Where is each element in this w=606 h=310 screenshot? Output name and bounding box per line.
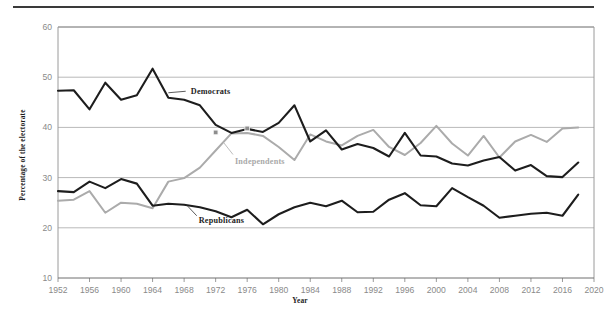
series-label-republicans: Republicans [199, 216, 244, 225]
x-tick-1976: 1976 [238, 285, 257, 295]
series-lines-group [58, 69, 578, 225]
y-tick-30: 30 [42, 173, 52, 183]
x-tick-2004: 2004 [458, 285, 477, 295]
x-tick-2008: 2008 [490, 285, 509, 295]
y-axis-title: Percentage of the electorate [18, 109, 27, 201]
crossover-marker-1972 [213, 130, 218, 135]
crossover-marker-1976 [245, 126, 250, 131]
y-tick-10: 10 [42, 273, 52, 283]
y-tick-20: 20 [42, 223, 52, 233]
x-tick-1956: 1956 [80, 285, 99, 295]
top-rule-divider [13, 6, 594, 8]
x-tick-1992: 1992 [364, 285, 383, 295]
series-label-democrats: Democrats [191, 87, 231, 96]
x-tick-1952: 1952 [48, 285, 67, 295]
x-tick-2012: 2012 [521, 285, 540, 295]
x-tick-1996: 1996 [395, 285, 414, 295]
x-tick-1980: 1980 [269, 285, 288, 295]
x-tick-labels-group: 1952195619601964196819721976198019841988… [48, 278, 603, 295]
x-axis-title: Year [292, 296, 308, 305]
x-tick-2000: 2000 [427, 285, 446, 295]
gridlines-group [58, 27, 594, 228]
x-tick-1972: 1972 [206, 285, 225, 295]
x-tick-1988: 1988 [332, 285, 351, 295]
y-tick-40: 40 [42, 122, 52, 132]
x-tick-1964: 1964 [143, 285, 162, 295]
x-tick-2020: 2020 [584, 285, 603, 295]
axes-frame [58, 27, 594, 278]
y-tick-50: 50 [42, 72, 52, 82]
leader-line-democrats [168, 91, 185, 93]
series-line-republicans [58, 179, 578, 224]
line-chart-svg: Percentage of the electorate Year 102030… [0, 0, 606, 310]
series-label-independents: Independents [235, 157, 285, 166]
series-line-independents [58, 126, 578, 213]
chart-figure: Percentage of the electorate Year 102030… [0, 0, 606, 310]
plot-frame [58, 27, 594, 278]
y-tick-labels-group: 102030405060 [42, 22, 52, 283]
leader-line-independents [224, 142, 233, 154]
series-line-democrats [58, 69, 578, 177]
x-tick-1984: 1984 [301, 285, 320, 295]
x-tick-1960: 1960 [111, 285, 130, 295]
x-tick-2016: 2016 [553, 285, 572, 295]
x-tick-1968: 1968 [175, 285, 194, 295]
y-tick-60: 60 [42, 22, 52, 32]
